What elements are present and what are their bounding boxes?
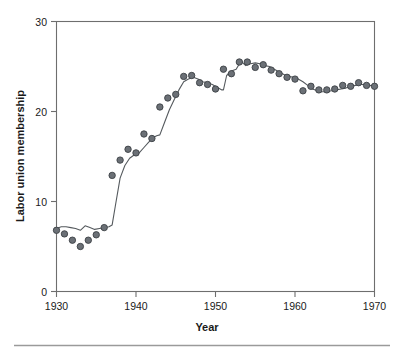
y-axis-title: Labor union membership — [14, 90, 26, 222]
data-point — [340, 82, 346, 88]
x-tick-label-1970: 1970 — [363, 300, 387, 312]
figure-container: 30 20 10 0 1930 1940 1950 1960 1970 Year… — [0, 0, 403, 359]
y-axis-ticks — [51, 22, 57, 292]
union-membership-chart: 30 20 10 0 1930 1940 1950 1960 1970 Year… — [0, 0, 403, 359]
data-point — [141, 131, 147, 137]
y-tick-label-10: 10 — [35, 196, 47, 208]
data-point-group — [53, 59, 377, 250]
data-point — [133, 150, 139, 156]
data-point — [268, 67, 274, 73]
data-point — [196, 80, 202, 86]
data-point — [363, 82, 369, 88]
data-point — [308, 83, 314, 89]
x-tick-label-1930: 1930 — [45, 300, 69, 312]
data-point — [284, 74, 290, 80]
x-axis-tick-labels: 1930 1940 1950 1960 1970 — [45, 300, 387, 312]
data-point — [276, 71, 282, 77]
y-tick-label-20: 20 — [35, 106, 47, 118]
data-point — [332, 86, 338, 92]
data-point — [324, 87, 330, 93]
data-point — [85, 237, 91, 243]
data-point — [125, 146, 131, 152]
data-point — [109, 172, 115, 178]
y-tick-label-0: 0 — [41, 286, 47, 298]
data-point — [236, 59, 242, 65]
data-point — [117, 157, 123, 163]
x-tick-label-1940: 1940 — [124, 300, 148, 312]
data-point — [188, 72, 194, 78]
data-point — [149, 135, 155, 141]
x-axis-title: Year — [195, 321, 219, 333]
data-point — [77, 243, 83, 249]
data-point — [181, 73, 187, 79]
data-point — [347, 83, 353, 89]
data-point — [157, 104, 163, 110]
data-point — [204, 81, 210, 87]
data-point — [165, 95, 171, 101]
data-point — [61, 231, 67, 237]
data-point — [53, 227, 59, 233]
y-axis-tick-labels: 30 20 10 0 — [35, 16, 47, 298]
data-point — [220, 66, 226, 72]
x-tick-label-1960: 1960 — [283, 300, 307, 312]
y-tick-label-30: 30 — [35, 16, 47, 28]
data-point — [173, 91, 179, 97]
data-point — [228, 71, 234, 77]
data-point — [316, 87, 322, 93]
x-axis-ticks — [57, 292, 375, 298]
data-point — [292, 76, 298, 82]
data-point — [300, 88, 306, 94]
data-point — [69, 237, 75, 243]
data-point — [260, 61, 266, 67]
plot-frame — [57, 22, 375, 292]
x-tick-label-1950: 1950 — [204, 300, 228, 312]
data-point — [93, 232, 99, 238]
data-point — [252, 64, 258, 70]
data-point — [355, 80, 361, 86]
data-point — [212, 86, 218, 92]
data-point — [371, 83, 377, 89]
data-point — [101, 224, 107, 230]
data-point — [244, 59, 250, 65]
